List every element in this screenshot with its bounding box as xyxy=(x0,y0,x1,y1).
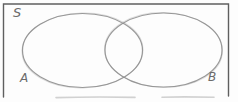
set-a-ellipse xyxy=(23,14,143,88)
universe-rectangle xyxy=(4,4,229,97)
venn-diagram-svg: S A B xyxy=(0,0,238,102)
set-a-label: A xyxy=(19,71,28,85)
set-b-ellipse-sketch-stroke xyxy=(104,11,224,89)
venn-diagram-canvas: S A B xyxy=(0,0,238,102)
set-b-label: B xyxy=(208,70,216,84)
set-b-ellipse xyxy=(105,13,222,87)
universe-rectangle-bottom-edge xyxy=(56,97,214,98)
universe-label: S xyxy=(13,5,21,20)
